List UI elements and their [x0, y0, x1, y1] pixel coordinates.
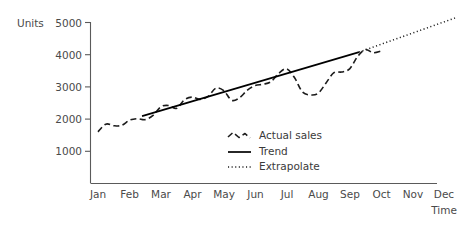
y-axis-title: Units — [17, 17, 44, 29]
legend-label-trend: Trend — [258, 145, 288, 157]
legend-swatch-actual-sales — [228, 133, 250, 139]
legend-label-actual-sales: Actual sales — [259, 129, 322, 141]
y-tick-label-2000: 2000 — [55, 113, 82, 125]
y-tick-label-4000: 4000 — [55, 49, 82, 61]
y-tick-label-1000: 1000 — [55, 145, 82, 157]
series-line-actual-sales — [98, 49, 381, 131]
sales-trend-chart: 5000 4000 3000 2000 1000 Units Jan Feb M… — [0, 0, 468, 228]
x-tick-label-jul: Jul — [280, 188, 294, 200]
x-tick-label-apr: Apr — [183, 188, 202, 200]
legend-label-extrapolate: Extrapolate — [259, 160, 320, 172]
x-tick-label-aug: Aug — [308, 188, 329, 200]
x-tick-label-jun: Jun — [246, 188, 263, 200]
series-line-trend — [142, 52, 359, 116]
y-tick-label-5000: 5000 — [55, 17, 82, 29]
x-tick-label-feb: Feb — [120, 188, 139, 200]
chart-canvas: 5000 4000 3000 2000 1000 Units Jan Feb M… — [0, 0, 468, 228]
x-tick-label-jan: Jan — [89, 188, 106, 200]
x-tick-label-may: May — [213, 188, 235, 200]
x-tick-label-mar: Mar — [151, 188, 171, 200]
x-tick-label-nov: Nov — [403, 188, 424, 200]
x-tick-label-sep: Sep — [340, 188, 360, 200]
chart-legend: Actual sales Trend Extrapolate — [228, 129, 322, 172]
x-tick-label-oct: Oct — [372, 188, 390, 200]
y-tick-label-3000: 3000 — [55, 81, 82, 93]
x-tick-label-dec: Dec — [434, 188, 455, 200]
series-line-extrapolate — [359, 18, 455, 52]
x-axis-title: Time — [430, 204, 457, 216]
